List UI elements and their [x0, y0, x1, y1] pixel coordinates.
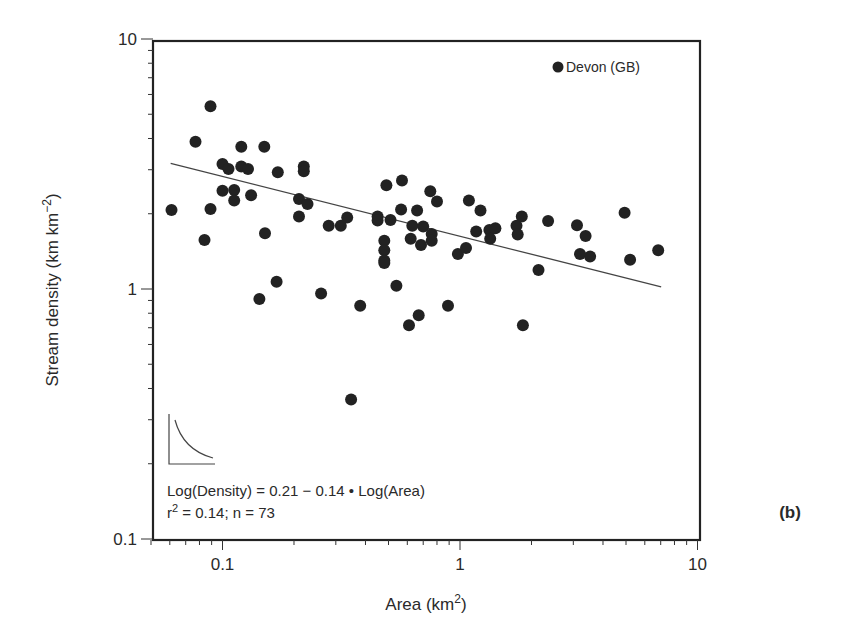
data-point — [298, 165, 310, 177]
data-point — [512, 229, 524, 241]
y-axis-title: Stream density (km km−2) — [40, 193, 62, 386]
data-point — [426, 235, 438, 247]
data-point — [395, 204, 407, 216]
data-point — [542, 215, 554, 227]
data-point — [624, 254, 636, 266]
data-point — [533, 264, 545, 276]
data-point — [293, 211, 305, 223]
data-point — [253, 293, 265, 305]
data-point — [345, 394, 357, 406]
inset-curve-icon — [169, 414, 215, 464]
data-point — [235, 141, 247, 153]
data-point — [228, 184, 240, 196]
data-point — [258, 141, 270, 153]
y-tick-label: 10 — [118, 30, 137, 49]
data-point — [516, 211, 528, 223]
legend-label: Devon (GB) — [566, 59, 640, 75]
data-point — [619, 207, 631, 219]
data-point — [378, 257, 390, 269]
data-point — [223, 163, 235, 175]
panel-label: (b) — [779, 503, 801, 522]
data-point — [460, 242, 472, 254]
data-point — [405, 233, 417, 245]
data-point — [205, 100, 217, 112]
plot-border — [153, 41, 700, 540]
data-point — [354, 300, 366, 312]
x-tick-label: 0.1 — [211, 555, 235, 574]
data-point — [411, 205, 423, 217]
legend: Devon (GB) — [553, 59, 640, 75]
data-point — [341, 212, 353, 224]
data-point — [199, 234, 211, 246]
data-point — [415, 239, 427, 251]
data-point — [315, 287, 327, 299]
data-point — [463, 195, 475, 207]
x-axis-title: Area (km2) — [385, 592, 466, 614]
data-point — [652, 244, 664, 256]
data-point — [372, 215, 384, 227]
data-point — [424, 185, 436, 197]
data-point — [571, 219, 583, 231]
x-tick-label: 10 — [688, 555, 707, 574]
plot-frame — [153, 41, 700, 540]
y-tick-label: 1 — [128, 280, 137, 299]
data-point — [406, 220, 418, 232]
y-tick-label: 0.1 — [113, 530, 137, 549]
data-points — [166, 100, 665, 405]
regression-stats: r2 = 0.14; n = 73 — [167, 502, 275, 521]
data-point — [470, 225, 482, 237]
data-point — [489, 222, 501, 234]
data-point — [385, 214, 397, 226]
data-point — [245, 189, 257, 201]
data-point — [228, 195, 240, 207]
data-point — [217, 185, 229, 197]
data-point — [413, 309, 425, 321]
data-point — [272, 166, 284, 178]
data-point — [475, 205, 487, 217]
data-point — [271, 276, 283, 288]
data-point — [380, 179, 392, 191]
data-point — [517, 319, 529, 331]
data-point — [205, 203, 217, 215]
data-point — [190, 136, 202, 148]
regression-equation: Log(Density) = 0.21 − 0.14 • Log(Area) — [167, 482, 425, 499]
data-point — [166, 204, 178, 216]
scatter-chart: 0.11100.1110 Devon (GB) Log(Density) = 0… — [0, 0, 843, 628]
data-point — [484, 233, 496, 245]
data-point — [580, 230, 592, 242]
data-point — [390, 280, 402, 292]
data-point — [378, 244, 390, 256]
legend-marker-icon — [553, 62, 564, 73]
data-point — [403, 319, 415, 331]
data-point — [574, 248, 586, 260]
data-point — [442, 300, 454, 312]
data-point — [259, 227, 271, 239]
data-point — [323, 220, 335, 232]
x-tick-label: 1 — [455, 555, 464, 574]
axis-ticks — [141, 39, 698, 550]
data-point — [302, 198, 314, 210]
data-point — [584, 250, 596, 262]
data-point — [396, 174, 408, 186]
data-point — [431, 195, 443, 207]
data-point — [242, 163, 254, 175]
